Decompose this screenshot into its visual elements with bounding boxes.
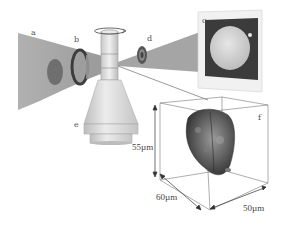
- label-c: c: [202, 17, 206, 25]
- dimension-depth-label: 60µm: [156, 193, 177, 202]
- optical-tomography-diagram: a b c d e f 55µm 60µm 50µm: [0, 0, 288, 230]
- label-e: e: [74, 121, 79, 129]
- lens-ring-d: [137, 46, 147, 64]
- dimension-width-label: 50µm: [243, 204, 264, 213]
- label-b: b: [74, 36, 79, 44]
- projection-screen: [198, 10, 262, 92]
- dimension-height-label: 55µm: [132, 143, 153, 152]
- objective-lens: [84, 80, 138, 145]
- diagram-graphics: [0, 0, 288, 230]
- label-f: f: [258, 114, 261, 122]
- cell-projection: [210, 26, 250, 70]
- reconstructed-cell: [186, 109, 234, 175]
- beam-to-screen: [118, 32, 200, 72]
- label-d: d: [147, 35, 152, 43]
- beam-spot: [47, 59, 63, 85]
- lens-ring-b: [72, 50, 88, 84]
- label-a: a: [31, 29, 36, 37]
